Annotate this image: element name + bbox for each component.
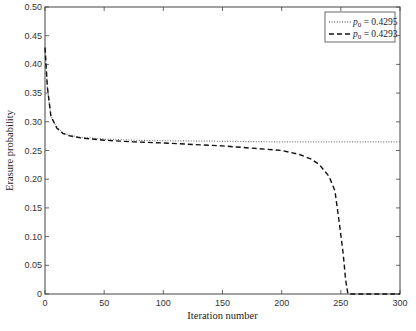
plot-axes: 05010015020025030000.050.100.150.200.250… xyxy=(4,2,408,321)
x-tick-label: 250 xyxy=(333,298,348,308)
series-line-1 xyxy=(45,48,400,142)
y-tick-label: 0 xyxy=(37,289,42,299)
x-tick-label: 50 xyxy=(99,298,109,308)
x-axis-label: Iteration number xyxy=(187,310,258,321)
x-tick-label: 150 xyxy=(215,298,230,308)
y-tick-label: 0.25 xyxy=(24,146,42,156)
x-tick-label: 100 xyxy=(156,298,171,308)
y-tick-label: 0.50 xyxy=(24,2,42,12)
chart: 05010015020025030000.050.100.150.200.250… xyxy=(0,0,416,331)
y-axis-label: Erasure probability xyxy=(4,109,15,191)
series-line-2 xyxy=(45,48,400,294)
y-tick-label: 0.30 xyxy=(24,117,42,127)
plot-frame xyxy=(45,7,400,294)
y-tick-label: 0.05 xyxy=(24,260,42,270)
y-tick-label: 0.15 xyxy=(24,203,42,213)
y-tick-label: 0.45 xyxy=(24,31,42,41)
x-tick-label: 200 xyxy=(274,298,289,308)
y-tick-label: 0.40 xyxy=(24,59,42,69)
x-tick-label: 300 xyxy=(392,298,407,308)
y-tick-label: 0.35 xyxy=(24,88,42,98)
y-tick-label: 0.20 xyxy=(24,174,42,184)
legend: p0 = 0.4295p0 = 0.4293 xyxy=(325,12,398,42)
y-tick-label: 0.10 xyxy=(24,232,42,242)
plot-lines xyxy=(45,48,400,295)
x-tick-label: 0 xyxy=(42,298,47,308)
